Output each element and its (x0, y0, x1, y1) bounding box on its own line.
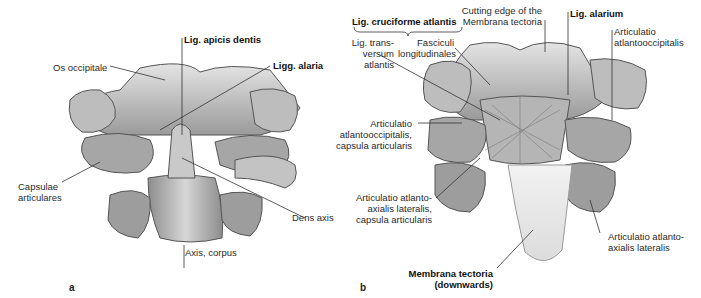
label-articulatio-atlantoaxialis-lateralis-capsula: Articulatio atlanto- axialis lateralis, … (340, 192, 432, 225)
label-dens-axis: Dens axis (292, 212, 334, 223)
panel-b-illustration (423, 42, 646, 260)
label-lig-transversum-atlantis: Lig. trans- versum atlantis (342, 37, 394, 70)
label-articulatio-atlantooccipitalis: Articulatio atlantooccipitalis (614, 26, 684, 48)
label-lig-alarium: Lig. alarium (570, 8, 623, 19)
panel-a-illustration (69, 64, 300, 242)
label-articulatio-atlantoaxialis-lateralis: Articulatio atlanto- axialis lateralis (608, 231, 684, 253)
panel-letter-b: b (360, 282, 366, 293)
anatomy-figure: Lig. apicis dentis Os occipitale Ligg. a… (0, 0, 701, 298)
label-capsulae-articulares: Capsulae articulares (18, 181, 62, 203)
label-lig-cruciforme-atlantis: Lig. cruciforme atlantis (352, 16, 457, 27)
label-articulatio-atlantooccipitalis-capsula: Articulatio atlantooccipitalis, capsula … (330, 118, 412, 151)
label-lig-apicis-dentis: Lig. apicis dentis (184, 34, 261, 45)
label-membrana-tectoria: Membrana tectoria (downwards) (400, 268, 493, 290)
label-axis-corpus: Axis, corpus (185, 247, 237, 258)
label-ligg-alaria: Ligg. alaria (273, 60, 323, 71)
label-os-occipitale: Os occipitale (53, 62, 107, 73)
panel-letter-a: a (69, 282, 75, 293)
label-fasciculi-longitudinales: Fasciculi longitudinales (398, 37, 454, 59)
label-cutting-edge: Cutting edge of the Membrana tectoria (460, 5, 542, 27)
